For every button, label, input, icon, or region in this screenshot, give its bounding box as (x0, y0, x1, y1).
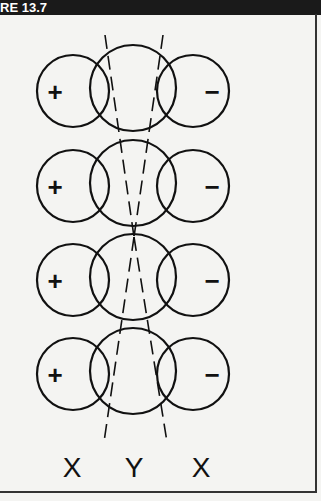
row-1 (37, 45, 229, 131)
row-4 (37, 328, 229, 414)
center-circle (90, 45, 176, 131)
minus-sign: − (204, 266, 219, 296)
minus-sign: − (204, 77, 219, 107)
row-2 (37, 140, 229, 226)
minus-sign: − (204, 172, 219, 202)
label-x-left: X (63, 452, 82, 483)
label-y: Y (125, 452, 144, 483)
plus-sign: + (47, 172, 62, 202)
plus-sign: + (47, 77, 62, 107)
minus-sign: − (204, 360, 219, 390)
plus-sign: + (47, 360, 62, 390)
plus-sign: + (47, 266, 62, 296)
orbital-diagram: + − + − + − + − X Y X (0, 0, 321, 501)
label-x-right: X (192, 452, 211, 483)
